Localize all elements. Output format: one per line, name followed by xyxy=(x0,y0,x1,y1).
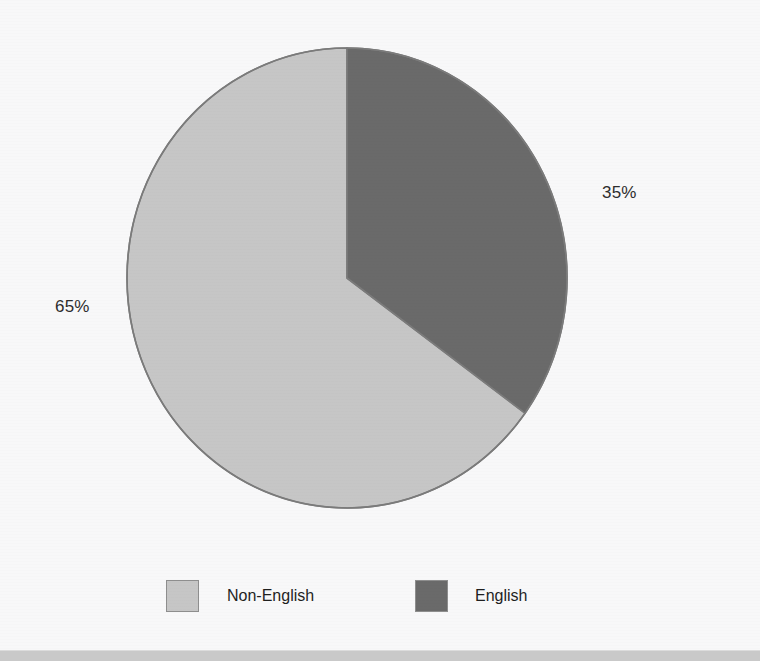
legend-item-non-english[interactable]: Non-English xyxy=(166,578,314,614)
data-label-non-english: 65% xyxy=(55,297,90,317)
legend-item-english[interactable]: English xyxy=(415,578,527,614)
legend-label-non-english: Non-English xyxy=(227,587,314,605)
pie-chart-svg xyxy=(0,0,760,661)
legend-swatch-non-english xyxy=(166,580,199,612)
legend-label-english: English xyxy=(475,587,527,605)
chart-legend: Non-English English xyxy=(0,578,760,622)
data-label-english: 35% xyxy=(602,183,637,203)
chart-canvas: 35% 65% Non-English English xyxy=(0,0,760,661)
legend-swatch-english xyxy=(415,580,448,612)
pie-chart xyxy=(0,0,760,661)
footer-strip xyxy=(0,650,760,661)
